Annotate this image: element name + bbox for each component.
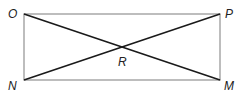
- vertex-label-N: N: [8, 79, 17, 93]
- rectangle-diagram: O P N M R: [0, 0, 245, 98]
- vertex-label-O: O: [8, 7, 17, 21]
- intersection-label-R: R: [118, 55, 127, 69]
- vertex-label-P: P: [225, 7, 233, 21]
- vertex-label-M: M: [224, 79, 234, 93]
